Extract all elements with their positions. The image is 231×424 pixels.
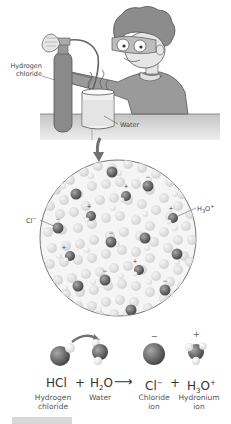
name-hydrogen-chloride: Hydrogen chloride — [30, 393, 76, 411]
label-water: Water — [120, 121, 139, 129]
goggles-icon — [112, 36, 156, 53]
label-leader-hcl — [42, 76, 55, 80]
superscript: − — [157, 379, 163, 387]
svg-text:+: + — [61, 243, 66, 250]
footer-bar — [12, 417, 72, 424]
svg-text:−: − — [145, 173, 150, 180]
superscript: + — [210, 379, 216, 387]
reaction-arrow-icon: ⟶ — [114, 375, 133, 389]
label-line: Hydrogen — [8, 62, 42, 70]
charge-sup: + — [210, 203, 214, 209]
plus-sign: + — [75, 376, 85, 390]
svg-text:+: + — [132, 257, 137, 264]
charge-sup: − — [32, 215, 36, 221]
name-line: ion — [132, 402, 176, 411]
formula-hcl: HCl — [46, 376, 67, 390]
formula-part: Cl — [145, 379, 157, 393]
formula-part: O — [104, 376, 113, 390]
name-chloride-ion: Chloride ion — [132, 393, 176, 411]
molecular-view: − − − − − + + + + + — [40, 159, 197, 323]
label-hydronium-ion: H3O+ — [197, 202, 214, 215]
student-figure — [60, 6, 188, 114]
name-line: Chloride — [132, 393, 176, 402]
formula-part: H — [187, 379, 196, 393]
formula-part: O — [201, 379, 210, 393]
chloride-ion-molecule — [143, 343, 165, 365]
name-line: Water — [80, 393, 120, 402]
name-line: Hydrogen — [30, 393, 76, 402]
label-hydrogen-chloride: Hydrogen chloride — [8, 62, 42, 78]
svg-text:+: + — [123, 182, 128, 189]
svg-text:−: − — [102, 267, 107, 274]
charge-negative: − — [151, 332, 158, 341]
charge-positive: + — [193, 330, 200, 339]
hydronium-molecule — [185, 342, 207, 365]
svg-text:−: − — [55, 215, 60, 222]
formula-part: H — [90, 376, 99, 390]
label-line: chloride — [8, 70, 42, 78]
water-molecule — [92, 339, 108, 365]
name-line: chloride — [30, 402, 76, 411]
svg-text:−: − — [108, 229, 113, 236]
svg-text:+: + — [168, 204, 173, 211]
formula-cl-minus: Cl− — [145, 376, 163, 393]
svg-text:+: + — [86, 202, 91, 209]
plus-sign: + — [170, 376, 180, 390]
name-line: ion — [176, 402, 222, 411]
name-line: Hydronium — [176, 393, 222, 402]
svg-text:−: − — [162, 277, 167, 284]
name-hydronium-ion: Hydronium ion — [176, 393, 222, 411]
name-water: Water — [80, 393, 120, 402]
label-chloride-ion: Cl− — [26, 214, 37, 225]
